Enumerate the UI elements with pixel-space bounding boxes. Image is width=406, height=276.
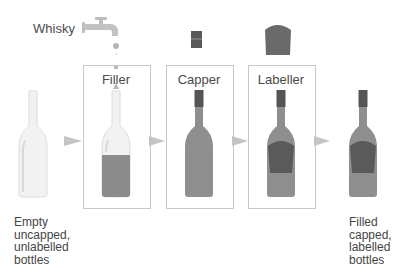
output-caption-line: Filled [349, 216, 392, 229]
output-caption-line: bottles [349, 254, 392, 267]
labelled-bottle [264, 90, 298, 198]
output-caption-line: labelled [349, 241, 392, 254]
input-caption: Empty uncapped, unlabelled bottles [14, 216, 70, 266]
finished-bottle [346, 90, 380, 198]
arrow-1 [64, 136, 84, 148]
labeller-label: Labeller [248, 72, 314, 87]
input-caption-line: bottles [14, 254, 70, 267]
cap-icon [191, 31, 203, 49]
label-icon [263, 22, 293, 56]
output-caption: Filled capped, labelled bottles [349, 216, 392, 266]
input-caption-line: unlabelled [14, 241, 70, 254]
input-caption-line: Empty [14, 216, 70, 229]
whisky-label: Whisky [33, 21, 75, 36]
empty-bottle [16, 90, 50, 198]
arrow-3 [232, 136, 252, 148]
capped-bottle [182, 90, 216, 198]
capper-label: Capper [166, 72, 232, 87]
arrow-4 [314, 136, 334, 148]
filler-label: Filler [83, 72, 149, 87]
arrow-2 [149, 136, 169, 148]
filled-bottle [99, 90, 133, 198]
